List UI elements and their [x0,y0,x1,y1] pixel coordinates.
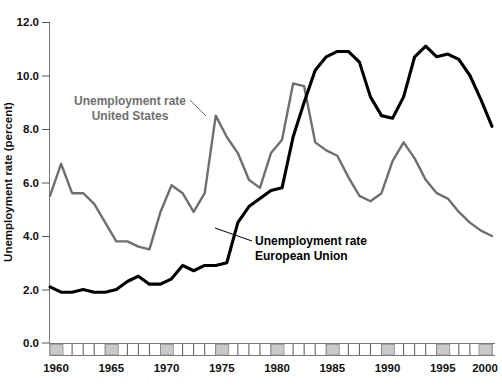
y-tick-label-4: 4.0 [23,230,39,242]
y-axis-ticks [42,23,50,344]
chart-canvas: 12.0 10.0 8.0 6.0 4.0 2.0 0.0 Unemployme… [0,0,502,387]
y-tick-label-8: 8.0 [23,123,39,135]
annotation-eu-line2: European Union [255,249,348,263]
annotation-eu-line1: Unemployment rate [255,234,367,248]
x-axis-period-marker-1960 [50,345,63,356]
unemployment-rate-chart: 12.0 10.0 8.0 6.0 4.0 2.0 0.0 Unemployme… [0,0,502,387]
x-axis-period-marker-1995 [437,345,450,356]
x-axis-period-marker-1975 [216,345,229,356]
y-tick-label-12: 12.0 [17,16,39,28]
x-tick-label-1975: 1975 [209,362,235,374]
y-tick-label-6: 6.0 [23,177,39,189]
x-axis-period-marker-1990 [382,345,395,356]
x-tick-label-1985: 1985 [319,362,345,374]
y-tick-label-10: 10.0 [17,70,39,82]
x-tick-label-2000: 2000 [472,362,498,374]
x-tick-label-1995: 1995 [430,362,456,374]
x-axis-period-marker-1970 [161,345,174,356]
x-tick-label-1980: 1980 [264,362,290,374]
x-tick-label-1965: 1965 [98,362,124,374]
x-axis-period-marker-2000 [479,345,492,356]
x-tick-label-1970: 1970 [154,362,180,374]
x-axis-period-marker-1985 [326,345,339,356]
y-tick-label-2: 2.0 [23,284,39,296]
x-axis-period-marker-1965 [105,345,118,356]
annotation-european-union: Unemployment rate European Union [215,228,367,263]
x-tick-label-1960: 1960 [43,362,69,374]
annotation-united-states: Unemployment rate United States [74,94,206,123]
annotation-us-line1: Unemployment rate [74,94,186,108]
x-axis-tick-labels: 196019651970197519801985199019952000 [43,362,498,374]
x-axis-period-marker-1980 [271,345,284,356]
y-tick-label-0: 0.0 [23,337,39,349]
annotation-us-leader-line [190,100,206,116]
annotation-us-line2: United States [92,109,169,123]
x-tick-label-1990: 1990 [375,362,401,374]
y-axis-title: Unemployment rate (percent) [2,102,14,262]
